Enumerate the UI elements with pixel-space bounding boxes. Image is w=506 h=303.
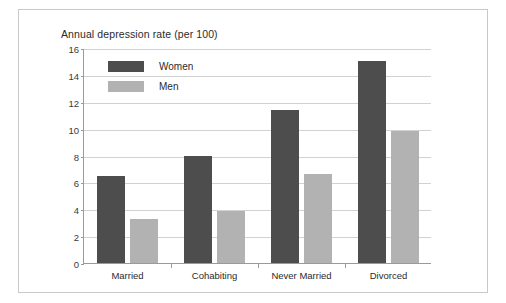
y-tick-label: 10 bbox=[68, 124, 79, 135]
chart-title: Annual depression rate (per 100) bbox=[61, 28, 218, 40]
legend-item-men: Men bbox=[108, 80, 193, 93]
bar-men-cohabiting[interactable] bbox=[217, 211, 245, 263]
legend-label-women: Women bbox=[159, 61, 193, 72]
chart-legend: Women Men bbox=[108, 60, 193, 100]
legend-swatch-women bbox=[108, 61, 144, 72]
y-tick-label: 14 bbox=[68, 70, 79, 81]
legend-label-men: Men bbox=[159, 81, 178, 92]
x-tick-label: Never Married bbox=[258, 270, 345, 281]
bar-women-divorced[interactable] bbox=[358, 61, 386, 263]
y-tick-label: 12 bbox=[68, 97, 79, 108]
y-tick-mark bbox=[81, 264, 84, 265]
bar-group: Divorced bbox=[345, 49, 432, 263]
bar-women-married[interactable] bbox=[97, 176, 125, 263]
x-tick-mark bbox=[258, 264, 259, 268]
x-tick-mark bbox=[345, 264, 346, 268]
bar-men-married[interactable] bbox=[130, 219, 158, 263]
x-tick-label: Married bbox=[84, 270, 171, 281]
bar-men-divorced[interactable] bbox=[391, 131, 419, 263]
bar-men-never-married[interactable] bbox=[304, 174, 332, 263]
x-tick-label: Divorced bbox=[345, 270, 432, 281]
y-tick-label: 0 bbox=[74, 259, 79, 270]
bar-women-cohabiting[interactable] bbox=[184, 156, 212, 264]
y-tick-label: 2 bbox=[74, 232, 79, 243]
bar-group: Never Married bbox=[258, 49, 345, 263]
x-tick-mark bbox=[171, 264, 172, 268]
figure-frame: Annual depression rate (per 100) 0246810… bbox=[18, 9, 488, 293]
y-tick-label: 8 bbox=[74, 151, 79, 162]
y-tick-label: 16 bbox=[68, 44, 79, 55]
y-tick-label: 6 bbox=[74, 178, 79, 189]
legend-item-women: Women bbox=[108, 60, 193, 73]
plot-area: 0246810121416 MarriedCohabitingNever Mar… bbox=[83, 49, 431, 264]
x-tick-label: Cohabiting bbox=[171, 270, 258, 281]
y-tick-label: 4 bbox=[74, 205, 79, 216]
bar-women-never-married[interactable] bbox=[271, 110, 299, 263]
legend-swatch-men bbox=[108, 81, 144, 92]
